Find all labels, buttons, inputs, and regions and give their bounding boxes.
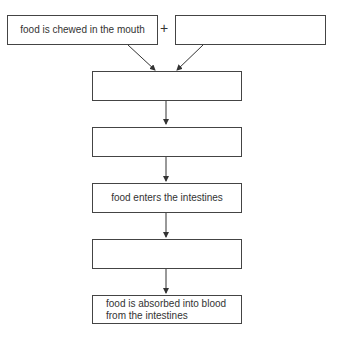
- flow-box-blank-4: [92, 127, 242, 157]
- flow-box-intestines: food enters the intestines: [92, 183, 242, 213]
- flow-box-chewed: food is chewed in the mouth: [7, 15, 158, 45]
- flow-box-label: food is absorbed into blood from the int…: [106, 298, 231, 322]
- flow-box-blank-6: [92, 239, 242, 269]
- plus-operator: +: [160, 20, 168, 36]
- flow-box-blank-3: [92, 71, 242, 101]
- flow-box-absorbed: food is absorbed into blood from the int…: [92, 295, 242, 324]
- flow-box-label: food is chewed in the mouth: [20, 24, 145, 36]
- arrow-box2-to-box3: [177, 45, 203, 70]
- flow-box-label: food enters the intestines: [111, 192, 223, 204]
- arrow-box1-to-box3: [128, 45, 155, 70]
- flow-box-blank-2: [175, 15, 326, 45]
- connector-arrows: [0, 0, 339, 339]
